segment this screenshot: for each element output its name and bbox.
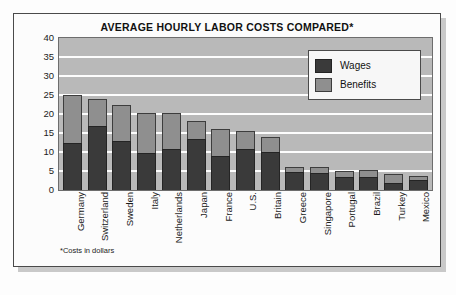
bar-segment-wages [335, 177, 354, 190]
bar-greece[interactable] [285, 38, 304, 190]
x-axis-label: Portugal [347, 192, 357, 227]
x-axis-label: Mexico [421, 192, 431, 222]
x-axis-label-slot: Brazil [358, 190, 377, 260]
bar-segment-benefits [187, 121, 206, 139]
x-axis-label: Turkey [397, 192, 407, 221]
y-axis-tick-10: 10 [28, 146, 54, 157]
x-axis-label-slot: Singapore [309, 190, 328, 260]
x-axis-label: Japan [199, 192, 209, 218]
bar-segment-wages [137, 153, 156, 190]
bar-segment-wages [384, 183, 403, 190]
y-axis-tick-0: 0 [28, 184, 54, 195]
bar-netherlands[interactable] [162, 38, 181, 190]
x-axis-label: Singapore [323, 192, 333, 235]
x-axis-label-slot: Greece [284, 190, 303, 260]
x-axis-label-slot: Portugal [334, 190, 353, 260]
wages-swatch-icon [315, 59, 332, 73]
bar-segment-wages [359, 177, 378, 190]
bar-segment-benefits [112, 105, 131, 141]
bar-segment-benefits [384, 174, 403, 183]
x-axis-label-slot: Turkey [383, 190, 402, 260]
y-axis-tick-25: 25 [28, 89, 54, 100]
x-axis-label-slot: Sweden [111, 190, 130, 260]
bar-segment-wages [211, 156, 230, 190]
bar-italy[interactable] [137, 38, 156, 190]
chart-footnote: *Costs in dollars [60, 246, 114, 255]
bar-britain[interactable] [261, 38, 280, 190]
x-axis-label: Brazil [372, 192, 382, 216]
bar-segment-wages [162, 149, 181, 190]
bar-japan[interactable] [187, 38, 206, 190]
x-axis-label-slot: Italy [136, 190, 155, 260]
bar-segment-wages [409, 180, 428, 190]
bar-germany[interactable] [63, 38, 82, 190]
x-axis-label: Switzerland [100, 192, 110, 241]
y-axis-tick-5: 5 [28, 165, 54, 176]
bar-segment-benefits [162, 113, 181, 149]
x-axis-label: Netherlands [174, 192, 184, 243]
bar-segment-wages [63, 143, 82, 191]
legend-item-benefits: Benefits [315, 75, 414, 94]
bar-segment-wages [285, 172, 304, 190]
x-axis-label-slot: U.S. [235, 190, 254, 260]
chart-legend: Wages Benefits [308, 50, 421, 100]
bar-switzerland[interactable] [88, 38, 107, 190]
bar-segment-wages [310, 173, 329, 190]
x-axis-label-slot: Netherlands [161, 190, 180, 260]
bar-segment-benefits [137, 113, 156, 153]
chart-title: AVERAGE HOURLY LABOR COSTS COMPARED* [14, 21, 440, 33]
x-axis-label-slot: Mexico [408, 190, 427, 260]
x-axis-label: France [224, 192, 234, 222]
bar-segment-wages [187, 139, 206, 190]
bar-segment-benefits [63, 95, 82, 143]
x-axis-label: Sweden [125, 192, 135, 226]
y-axis-tick-40: 40 [28, 32, 54, 43]
y-axis-tick-15: 15 [28, 127, 54, 138]
x-axis-label-slot: Japan [186, 190, 205, 260]
y-axis-tick-35: 35 [28, 51, 54, 62]
y-axis-tick-30: 30 [28, 70, 54, 81]
bar-segment-benefits [236, 131, 255, 149]
bar-segment-benefits [88, 99, 107, 126]
legend-label-wages: Wages [340, 60, 371, 71]
legend-item-wages: Wages [315, 56, 414, 75]
x-axis-label: Britain [273, 192, 283, 219]
bar-segment-wages [261, 152, 280, 190]
legend-label-benefits: Benefits [340, 79, 376, 90]
bar-segment-benefits [359, 170, 378, 177]
bar-segment-wages [112, 141, 131, 190]
bar-sweden[interactable] [112, 38, 131, 190]
bar-u-s[interactable] [236, 38, 255, 190]
y-axis: 4035302520151050 [22, 37, 54, 189]
bar-france[interactable] [211, 38, 230, 190]
x-axis-label: Germany [76, 192, 86, 231]
page-background: AVERAGE HOURLY LABOR COSTS COMPARED* 403… [0, 0, 456, 295]
benefits-swatch-icon [315, 78, 332, 92]
x-axis-label: Italy [150, 192, 160, 209]
bar-segment-wages [236, 149, 255, 190]
bar-segment-wages [88, 126, 107, 190]
x-axis-label: Greece [298, 192, 308, 223]
bar-segment-benefits [211, 129, 230, 156]
chart-figure: AVERAGE HOURLY LABOR COSTS COMPARED* 403… [13, 13, 441, 267]
x-axis-label-slot: France [210, 190, 229, 260]
x-axis-label: U.S. [248, 192, 258, 210]
y-axis-tick-20: 20 [28, 108, 54, 119]
x-axis-label-slot: Britain [260, 190, 279, 260]
bar-segment-benefits [261, 137, 280, 152]
